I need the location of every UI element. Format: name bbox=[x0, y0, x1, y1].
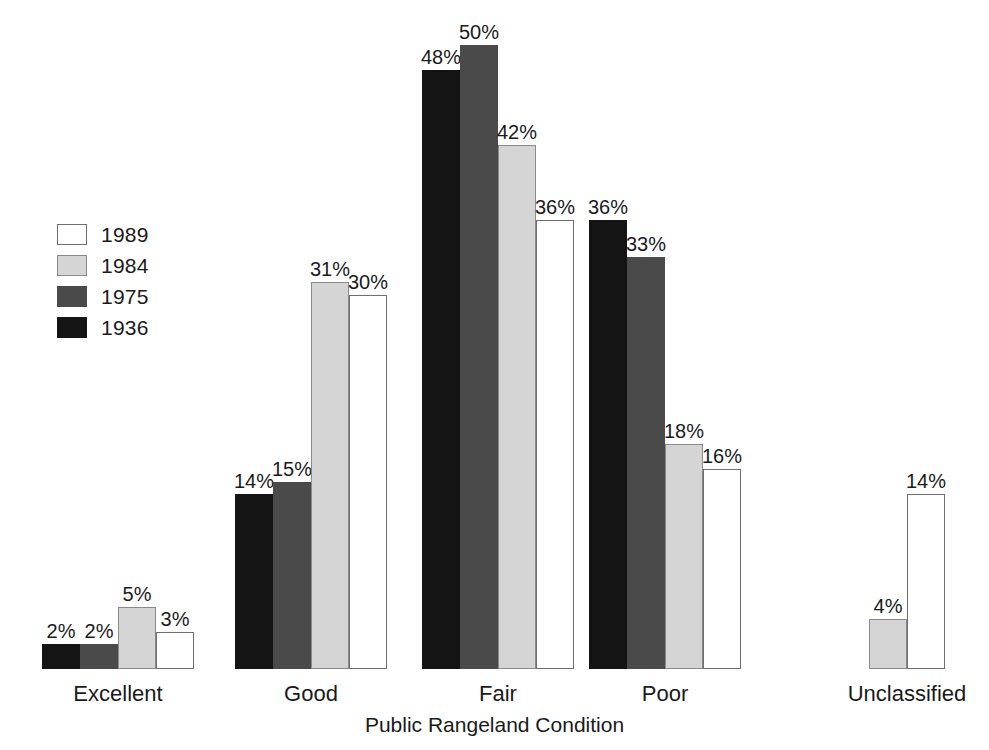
bar-value-label: 50% bbox=[459, 22, 499, 42]
bar-excellent-1936[interactable]: 2% bbox=[42, 29, 80, 669]
bar-value-label: 3% bbox=[161, 609, 190, 629]
bar-chart: 1989198419751936 2%2%5%3%Excellent14%15%… bbox=[0, 0, 989, 750]
bar-poor-1936[interactable]: 36% bbox=[589, 29, 627, 669]
bar-rect bbox=[665, 444, 703, 669]
bar-rect bbox=[422, 70, 460, 669]
bar-fair-1984[interactable]: 42% bbox=[498, 29, 536, 669]
bar-value-label: 2% bbox=[85, 621, 114, 641]
bar-rect bbox=[703, 469, 741, 669]
bar-rect bbox=[80, 644, 118, 669]
bar-rect bbox=[349, 295, 387, 669]
bar-good-1984[interactable]: 31% bbox=[311, 29, 349, 669]
x-tick-label-unclassified: Unclassified bbox=[797, 681, 989, 707]
bar-rect bbox=[907, 494, 945, 669]
bar-value-label: 31% bbox=[310, 259, 350, 279]
bar-fair-1936[interactable]: 48% bbox=[422, 29, 460, 669]
bar-fair-1975[interactable]: 50% bbox=[460, 29, 498, 669]
bar-value-label: 42% bbox=[497, 122, 537, 142]
bar-value-label: 16% bbox=[702, 446, 742, 466]
bar-excellent-1989[interactable]: 3% bbox=[156, 29, 194, 669]
bar-rect bbox=[156, 632, 194, 669]
bar-poor-1989[interactable]: 16% bbox=[703, 29, 741, 669]
bar-good-1989[interactable]: 30% bbox=[349, 29, 387, 669]
bar-rect bbox=[589, 220, 627, 669]
bar-value-label: 5% bbox=[123, 584, 152, 604]
bar-poor-1975[interactable]: 33% bbox=[627, 29, 665, 669]
bar-group-poor: 36%33%18%16% bbox=[589, 29, 741, 669]
bar-group-good: 14%15%31%30% bbox=[235, 29, 387, 669]
bar-rect bbox=[273, 482, 311, 669]
bar-unclassified-1989[interactable]: 14% bbox=[907, 29, 945, 669]
bar-value-label: 14% bbox=[234, 471, 274, 491]
bar-group-excellent: 2%2%5%3% bbox=[42, 29, 194, 669]
x-tick-label-excellent: Excellent bbox=[8, 681, 228, 707]
bar-value-label: 2% bbox=[47, 621, 76, 641]
bar-rect bbox=[311, 282, 349, 669]
bar-rect bbox=[235, 494, 273, 669]
bar-excellent-1984[interactable]: 5% bbox=[118, 29, 156, 669]
bar-excellent-1975[interactable]: 2% bbox=[80, 29, 118, 669]
bar-value-label: 33% bbox=[626, 234, 666, 254]
bar-value-label: 36% bbox=[588, 197, 628, 217]
bar-rect bbox=[498, 145, 536, 669]
bar-rect bbox=[627, 257, 665, 669]
bar-fair-1989[interactable]: 36% bbox=[536, 29, 574, 669]
bar-rect bbox=[118, 607, 156, 669]
bar-rect bbox=[869, 619, 907, 669]
bar-group-fair: 48%50%42%36% bbox=[422, 29, 574, 669]
bar-value-label: 30% bbox=[348, 272, 388, 292]
bar-rect bbox=[460, 45, 498, 669]
x-tick-label-poor: Poor bbox=[555, 681, 775, 707]
bar-good-1975[interactable]: 15% bbox=[273, 29, 311, 669]
bar-rect bbox=[42, 644, 80, 669]
bar-group-unclassified: 4%14% bbox=[869, 29, 945, 669]
plot-area: 2%2%5%3%Excellent14%15%31%30%Good48%50%4… bbox=[0, 0, 989, 750]
bar-value-label: 48% bbox=[421, 47, 461, 67]
bar-poor-1984[interactable]: 18% bbox=[665, 29, 703, 669]
bar-unclassified-1984[interactable]: 4% bbox=[869, 29, 907, 669]
bar-good-1936[interactable]: 14% bbox=[235, 29, 273, 669]
bar-value-label: 18% bbox=[664, 421, 704, 441]
bar-value-label: 14% bbox=[906, 471, 946, 491]
bar-rect bbox=[536, 220, 574, 669]
bar-value-label: 15% bbox=[272, 459, 312, 479]
bar-value-label: 36% bbox=[535, 197, 575, 217]
x-axis-title: Public Rangeland Condition bbox=[0, 713, 989, 737]
bar-value-label: 4% bbox=[874, 596, 903, 616]
